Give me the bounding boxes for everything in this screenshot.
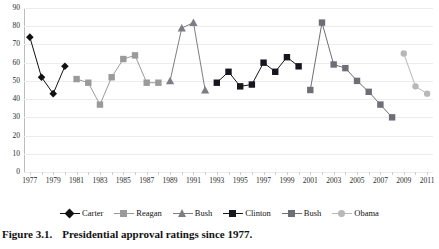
data-point-marker [225,69,231,75]
legend-entry-carter-0[interactable]: Carter [60,208,103,218]
legend-marker-circle-icon [332,208,352,218]
series-line [170,23,205,90]
data-point-marker [38,73,46,81]
series-bush-2 [166,18,209,93]
data-point-marker [120,56,126,62]
data-point-marker [272,69,278,75]
legend-entry-bush-4[interactable]: Bush [282,208,321,218]
legend-entry-bush-2[interactable]: Bush [173,208,212,218]
data-point-marker [330,61,336,67]
data-point-marker [189,18,197,26]
data-point-marker [366,89,372,95]
data-point-marker [401,50,407,56]
legend-label: Clinton [245,208,271,218]
legend-entry-obama-5[interactable]: Obama [332,208,379,218]
legend-entry-reagan-1[interactable]: Reagan [114,208,162,218]
data-point-marker [424,90,430,96]
legend-marker-diamond-icon [60,208,80,218]
data-point-marker [389,114,395,120]
series-obama-5 [401,50,431,96]
data-point-marker [214,80,220,86]
series-line [30,37,65,93]
legend-marker-square-icon [114,208,134,218]
figure-container: 0102030405060708090 19771979198119831985… [0,0,439,249]
legend-marker-square-icon [282,208,302,218]
data-point-marker [295,63,301,69]
data-point-marker [26,33,34,41]
data-point-marker [201,86,209,94]
series-reagan-1 [73,52,161,108]
data-point-marker [412,83,418,89]
caption-number: Figure 3.1. [2,228,52,240]
chart-legend: CarterReaganBushClintonBushObama [0,205,439,221]
data-point-marker [342,65,348,71]
data-point-marker [49,90,57,98]
caption-text: Presidential approval ratings since 1977… [62,228,252,240]
series-bush-4 [307,19,395,120]
legend-marker-square-icon [223,208,243,218]
legend-label: Carter [82,208,103,218]
data-point-marker [132,52,138,58]
series-carter-0 [26,33,69,97]
data-point-marker [249,81,255,87]
legend-label: Bush [195,208,212,218]
data-point-marker [237,83,243,89]
data-point-marker [307,87,313,93]
series-clinton-3 [214,54,302,90]
data-point-marker [97,101,103,107]
data-point-marker [166,77,174,85]
data-point-marker [260,59,266,65]
legend-label: Obama [354,208,379,218]
legend-marker-triangle-icon [173,208,193,218]
legend-entry-clinton-3[interactable]: Clinton [223,208,271,218]
data-point-marker [377,101,383,107]
data-point-marker [85,80,91,86]
chart-series-layer [0,0,439,180]
data-point-marker [354,78,360,84]
data-point-marker [319,19,325,25]
data-point-marker [144,80,150,86]
data-point-marker [73,76,79,82]
data-point-marker [178,24,186,32]
legend-label: Reagan [136,208,162,218]
data-point-marker [155,80,161,86]
data-point-marker [61,63,69,71]
data-point-marker [108,74,114,80]
data-point-marker [284,54,290,60]
figure-caption: Figure 3.1.Presidential approval ratings… [2,228,437,240]
legend-label: Bush [304,208,321,218]
